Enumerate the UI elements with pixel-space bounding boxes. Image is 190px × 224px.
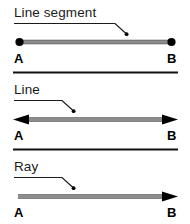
leader-line-segment — [14, 24, 126, 34]
segment-endpoint-b-dot — [167, 38, 175, 46]
segment-label-a: A — [14, 51, 24, 66]
leader-dot-ray — [72, 186, 76, 190]
leader-line — [14, 101, 73, 111]
panel-line-segment: Line segment A B — [14, 5, 176, 66]
segment-endpoint-a-dot — [15, 38, 23, 46]
panel-title-line-segment: Line segment — [14, 5, 96, 20]
line-label-b: B — [167, 128, 176, 143]
panel-ray: Ray A B — [14, 159, 178, 220]
segment-label-b: B — [167, 51, 176, 66]
panel-line: Line A B — [13, 82, 178, 143]
figure-canvas: Line segment A B Line A B — [0, 0, 190, 224]
line-label-a: A — [14, 128, 24, 143]
leader-dot-line — [72, 109, 76, 113]
ray-label-b: B — [167, 205, 176, 220]
ray-arrowhead-right — [162, 192, 178, 202]
line-arrowhead-right — [162, 115, 178, 125]
leader-ray — [14, 178, 73, 188]
geometry-figure: Line segment A B Line A B — [0, 0, 190, 224]
line-arrowhead-left — [13, 115, 29, 125]
leader-dot-line-segment — [125, 32, 129, 36]
panel-title-line: Line — [14, 82, 40, 97]
ray-label-a: A — [14, 205, 24, 220]
panel-title-ray: Ray — [14, 159, 38, 174]
